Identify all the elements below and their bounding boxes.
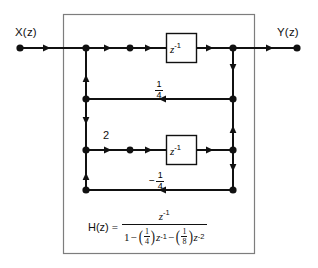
arrow-to-output — [266, 45, 273, 52]
den-var-1-exponent: -1 — [160, 232, 167, 241]
node-summing-lower-left — [82, 146, 89, 153]
node-summing-top-right — [229, 44, 236, 51]
paren-open: ( — [138, 228, 142, 245]
equation-lhs: H(z) — [88, 221, 109, 233]
arrow-before-delay2 — [145, 147, 152, 154]
den-coeff-2: 1 8 — [181, 228, 187, 246]
diagram-canvas: X(z) Y(z) z-1 z-1 1 4 2 − 1 4 H(z) = z-1… — [0, 0, 318, 268]
den-one: 1 — [124, 231, 130, 243]
node-left-bottom — [82, 186, 89, 193]
equation-numerator: z-1 — [153, 208, 176, 224]
den-var-2-exponent: -2 — [198, 232, 205, 241]
fraction-neg-quarter: 1 4 — [156, 171, 164, 191]
fraction-neg-quarter-denominator: 4 — [156, 182, 164, 192]
transfer-function-equation: H(z) = z-1 1 − ( 1 4 ) z-1 − — [88, 208, 207, 246]
node-left-mid — [82, 95, 89, 102]
den-coeff-2-denominator: 8 — [182, 237, 186, 246]
fraction-quarter-denominator: 4 — [155, 91, 163, 101]
node-right-mid — [229, 95, 236, 102]
arrow-right-rail-down-2 — [230, 164, 237, 171]
delay-1-exponent: -1 — [174, 41, 181, 50]
numerator-exponent: -1 — [163, 208, 170, 217]
node-summing-lower-right — [229, 146, 236, 153]
paren-close: ) — [189, 228, 193, 245]
arrow-after-delay2 — [206, 147, 213, 154]
arrow-right-rail-up-1 — [230, 126, 237, 133]
equation-denominator: 1 − ( 1 4 ) z-1 − ( 1 — [122, 225, 207, 246]
arrow-after-delay1 — [206, 45, 213, 52]
arrow-before-delay1 — [145, 45, 152, 52]
arrow-left-rail-up-1 — [83, 75, 90, 82]
arrow-input-right — [43, 45, 50, 52]
input-label: X(z) — [15, 27, 37, 39]
gain-label-negative-quarter: − 1 4 — [149, 171, 164, 191]
den-paren-group-1: ( 1 4 ) — [138, 228, 156, 246]
output-label: Y(z) — [277, 27, 299, 39]
node-input-terminal — [16, 44, 23, 51]
gain-label-two: 2 — [103, 130, 109, 141]
delay-2-exponent: -1 — [174, 143, 181, 152]
den-coeff-1-numerator: 1 — [145, 228, 149, 237]
delay-block-2-label: z-1 — [170, 143, 181, 157]
arrow-left-rail-down-1 — [83, 117, 90, 124]
negative-sign: − — [149, 176, 155, 187]
equation-fraction: z-1 1 − ( 1 4 ) z-1 − ( — [122, 208, 207, 246]
fraction-quarter: 1 4 — [155, 80, 163, 100]
arrow-right-rail-down-1 — [230, 64, 237, 71]
den-minus-2: − — [168, 231, 174, 243]
node-branch-top — [127, 45, 134, 52]
paren-close: ) — [151, 228, 155, 245]
gain-label-quarter: 1 4 — [155, 80, 163, 100]
den-coeff-2-numerator: 1 — [182, 228, 186, 237]
arrow-after-lowerleft-node — [104, 147, 111, 154]
fraction-neg-quarter-numerator: 1 — [156, 171, 164, 181]
node-right-bottom — [229, 186, 236, 193]
den-coeff-1-denominator: 4 — [145, 237, 149, 246]
den-paren-group-2: ( 1 8 ) — [175, 228, 193, 246]
fraction-quarter-numerator: 1 — [155, 80, 163, 90]
delay-block-1-label: z-1 — [170, 41, 181, 55]
node-branch-lower — [127, 147, 134, 154]
paren-open: ( — [176, 228, 180, 245]
den-minus-1: − — [131, 231, 137, 243]
node-summing-top-left — [82, 44, 89, 51]
arrow-after-topleft-node — [104, 45, 111, 52]
arrow-left-rail-up-2 — [83, 173, 90, 180]
equation-equals: = — [112, 221, 118, 233]
den-coeff-1: 1 4 — [144, 228, 150, 246]
node-output-terminal — [293, 44, 300, 51]
